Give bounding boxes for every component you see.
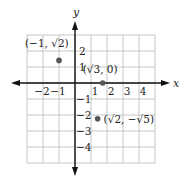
- x-axis-label: x: [173, 77, 180, 90]
- y-tick-label: −4: [76, 141, 92, 153]
- y-tick-label: −1: [76, 93, 91, 105]
- data-point: [56, 58, 62, 64]
- point-label: (√2, −√5): [104, 113, 154, 125]
- y-axis-label: y: [72, 6, 80, 19]
- x-axis-right-arrow: [161, 80, 170, 86]
- x-tick-label: −1: [50, 85, 65, 97]
- point-label: (√3, 0): [83, 63, 118, 75]
- x-axis-left-arrow: [11, 80, 20, 86]
- data-point: [95, 116, 101, 122]
- data-point: [100, 80, 106, 86]
- y-axis-top-arrow: [72, 21, 78, 30]
- x-tick-label: 1: [92, 85, 99, 97]
- y-tick-label: −2: [76, 109, 91, 121]
- y-tick-label: 2: [79, 45, 86, 57]
- coordinate-plane: x y −2−1123421−1−2−3−4 (−1, √2)(√3, 0)(√…: [0, 0, 189, 183]
- x-tick-label: 2: [108, 85, 115, 97]
- y-axis-bottom-arrow: [72, 167, 78, 176]
- y-tick-label: −3: [76, 125, 91, 137]
- x-tick-label: 3: [124, 85, 131, 97]
- point-label: (−1, √2): [25, 37, 69, 49]
- x-tick-label: −2: [34, 85, 49, 97]
- x-tick-label: 4: [140, 85, 147, 97]
